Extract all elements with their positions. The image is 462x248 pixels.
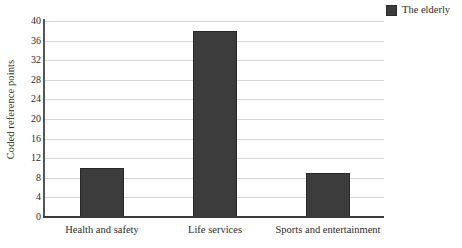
chart-legend: The elderly: [386, 5, 450, 16]
bar-chart-figure: The elderly Coded reference points 40363…: [0, 0, 462, 248]
gridline-40: [45, 21, 384, 22]
x-axis-line: [43, 216, 384, 218]
x-tick-health-and-safety: Health and safety: [65, 224, 138, 236]
y-axis-title-text: Coded reference points: [6, 59, 17, 159]
bar-life-services[interactable]: [193, 31, 237, 217]
y-tick-4: 4: [20, 192, 41, 202]
plot-area: [45, 21, 384, 217]
y-tick-8: 8: [20, 173, 41, 183]
y-tick-0: 0: [20, 212, 41, 222]
y-tick-16: 16: [20, 134, 41, 144]
y-tick-24: 24: [20, 94, 41, 104]
bar-sports-and-entertainment[interactable]: [306, 173, 350, 217]
y-tick-36: 36: [20, 36, 41, 46]
y-axis-line: [43, 19, 45, 218]
bar-health-and-safety[interactable]: [80, 168, 124, 217]
y-tick-20: 20: [20, 114, 41, 124]
x-tick-life-services: Life services: [188, 224, 242, 236]
legend-swatch-the-elderly: [386, 5, 397, 16]
x-axis-tick-labels: Health and safetyLife servicesSports and…: [45, 224, 462, 242]
y-tick-28: 28: [20, 75, 41, 85]
y-tick-40: 40: [20, 16, 41, 26]
y-axis-title: Coded reference points: [0, 0, 22, 218]
y-tick-32: 32: [20, 55, 41, 65]
legend-label-the-elderly: The elderly: [402, 5, 450, 16]
y-axis-tick-labels: 4036322824201612840: [20, 21, 41, 217]
y-tick-12: 12: [20, 153, 41, 163]
x-tick-sports-and-entertainment: Sports and entertainment: [276, 224, 381, 236]
